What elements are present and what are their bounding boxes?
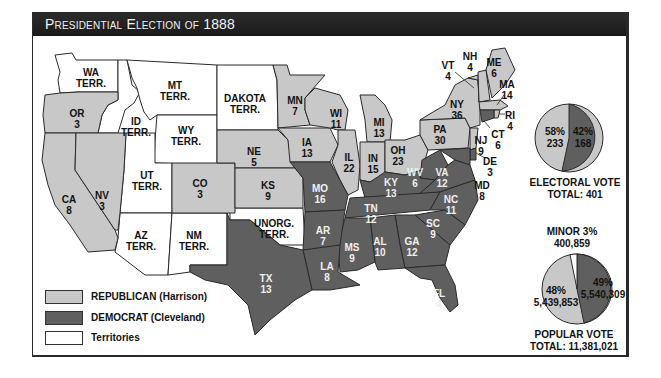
label-ID: IDTERR. xyxy=(121,116,151,138)
label-NJ: NJ9 xyxy=(475,135,488,157)
republican-swatch xyxy=(45,290,83,304)
label-OR: OR3 xyxy=(70,108,85,130)
label-CO: CO3 xyxy=(193,178,208,200)
label-NY: NY36 xyxy=(450,99,464,121)
legend-territories: Territories xyxy=(45,331,245,347)
label-MS: MS9 xyxy=(345,242,360,264)
label-MO: MO16 xyxy=(312,183,328,205)
label-IA: IA13 xyxy=(301,137,312,159)
label-MA: MA14 xyxy=(499,79,515,101)
label-NE: NE5 xyxy=(247,146,261,168)
label-MT: MTTERR. xyxy=(160,80,190,102)
label-WY: WYTERR. xyxy=(171,125,201,147)
label-PA: PA30 xyxy=(433,124,446,146)
label-DE: DE3 xyxy=(483,156,497,178)
label-CA: CA8 xyxy=(62,194,76,216)
label-ME: ME6 xyxy=(487,57,502,79)
label-OH: OH23 xyxy=(391,145,406,167)
label-KS: KS9 xyxy=(261,180,275,202)
label-GA: GA12 xyxy=(405,236,420,258)
label-NV: NV3 xyxy=(95,190,109,212)
democrat-swatch xyxy=(45,311,83,325)
label-WV: WV6 xyxy=(407,167,423,189)
state-CT xyxy=(480,110,494,122)
label-FL: FL4 xyxy=(433,288,445,310)
legend-democrat: DEMOCRAT (Cleveland) xyxy=(45,311,245,327)
label-SC: SC9 xyxy=(426,218,440,240)
label-UNORG: UNORG.TERR. xyxy=(254,218,294,240)
label-VA: VA12 xyxy=(435,167,448,189)
label-TX: TX13 xyxy=(260,273,273,295)
label-DAKOTA: DAKOTATERR. xyxy=(224,93,266,115)
label-UT: UTTERR. xyxy=(132,170,162,192)
label-MI: MI13 xyxy=(373,117,384,139)
label-MD: MD8 xyxy=(474,180,490,202)
popular-democrat-label: 49%5,540,309 xyxy=(581,277,626,301)
label-VT: VT4 xyxy=(442,60,455,82)
label-TN: TN12 xyxy=(364,203,377,225)
territories-swatch xyxy=(45,331,83,345)
state-FL xyxy=(405,265,458,312)
label-WA: WATERR. xyxy=(76,67,106,89)
popular-vote-caption: POPULAR VOTETOTAL: 11,381,021 xyxy=(530,329,618,353)
label-AZ: AZTERR. xyxy=(126,230,156,252)
label-LA: LA8 xyxy=(320,261,333,283)
label-NC: NC11 xyxy=(444,194,458,216)
label-MN: MN7 xyxy=(287,95,303,117)
legend-republican: REPUBLICAN (Harrison) xyxy=(45,290,245,306)
state-MA xyxy=(479,100,508,110)
popular-republican-label: 48%5,439,853 xyxy=(534,285,579,309)
label-NH: NH4 xyxy=(463,51,477,73)
label-AL: AL10 xyxy=(373,236,386,258)
label-AR: AR7 xyxy=(316,225,330,247)
electoral-vote-caption: ELECTORAL VOTETOTAL: 401 xyxy=(530,177,621,201)
label-RI: RI4 xyxy=(505,110,515,132)
label-IL: IL22 xyxy=(343,152,354,174)
label-KY: KY13 xyxy=(384,177,398,199)
label-NM: NMTERR. xyxy=(179,230,209,252)
electoral-republican-label: 58%233 xyxy=(545,126,565,150)
label-CT: CT6 xyxy=(491,129,504,151)
label-WI: WI11 xyxy=(330,108,342,130)
electoral-democrat-label: 42%168 xyxy=(573,126,593,150)
popular-minor-label: MINOR 3%400,859 xyxy=(547,226,598,250)
label-IN: IN15 xyxy=(367,153,378,175)
